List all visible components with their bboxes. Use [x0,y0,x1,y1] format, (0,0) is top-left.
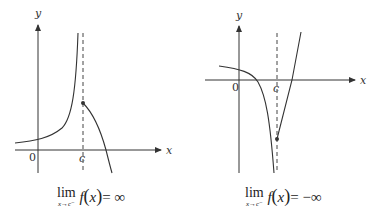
right-x-label: x [360,74,367,87]
left-x-label: x [166,144,173,157]
left-lim-word: lim [57,186,76,200]
left-lim-sub: x→c⁻ [57,200,76,208]
right-curve-branch-2 [277,32,301,139]
right-lim: lim x→c⁻ [245,186,264,208]
right-origin-label: 0 [232,81,239,94]
left-c-label: c [79,152,85,165]
left-point [81,101,85,105]
left-origin-label: 0 [29,151,36,164]
right-point [275,137,279,141]
right-curve-branch-1 [219,66,274,173]
right-y-label: y [235,9,243,22]
right-graph: y x 0 c [205,9,367,173]
right-lim-word: lim [245,186,264,200]
left-curve-branch-1 [15,33,78,143]
right-c-label: c [273,82,279,95]
left-y-label: y [34,7,42,20]
right-lim-sub: x→c⁻ [245,200,264,208]
right-caption: lim x→c⁻ f(x)= −∞ [245,186,322,208]
left-curve-branch-2 [83,103,112,173]
right-rhs: = −∞ [290,189,321,205]
left-lim: lim x→c⁻ [57,186,76,208]
left-caption: lim x→c⁻ f(x)= ∞ [57,186,125,208]
left-rhs: = ∞ [102,189,125,205]
left-graph: y x 0 c [15,7,173,173]
